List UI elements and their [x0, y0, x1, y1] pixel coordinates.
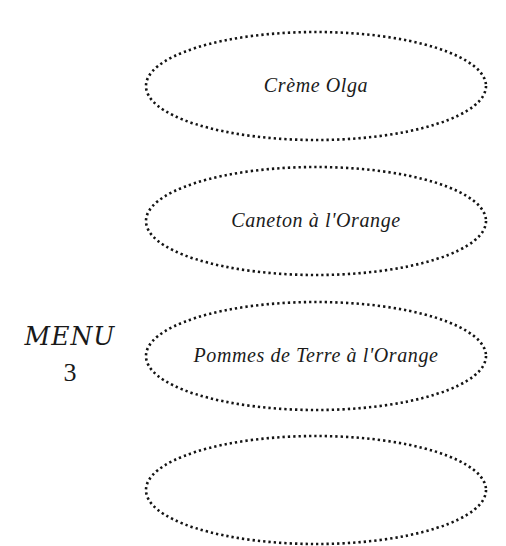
- menu-item-ellipse: Caneton à l'Orange: [144, 165, 488, 277]
- menu-item-ellipse: [144, 434, 488, 546]
- menu-item-label: Caneton à l'Orange: [144, 209, 488, 232]
- menu-item-ellipse: Pommes de Terre à l'Orange: [144, 300, 488, 412]
- menu-item-label: Crème Olga: [144, 74, 488, 97]
- menu-item-label: Pommes de Terre à l'Orange: [144, 344, 488, 367]
- dotted-ellipse-icon: [144, 434, 488, 546]
- menu-item-ellipse: Crème Olga: [144, 30, 488, 142]
